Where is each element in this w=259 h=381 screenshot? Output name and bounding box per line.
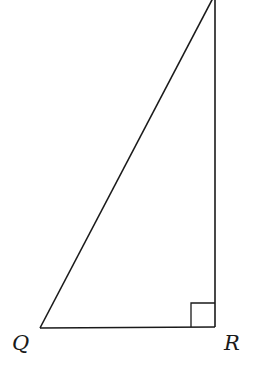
right-angle-marker — [191, 303, 215, 327]
triangle-diagram: Q R — [0, 0, 259, 381]
hypotenuse — [40, 0, 213, 328]
vertex-label-q: Q — [12, 331, 29, 355]
vertex-label-r: R — [223, 331, 240, 355]
side-qr — [40, 327, 215, 328]
